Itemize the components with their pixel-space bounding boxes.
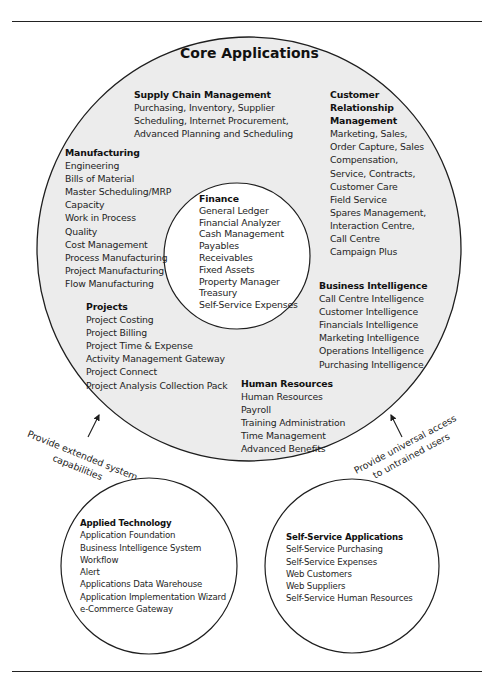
list-item: Field Service — [330, 193, 426, 206]
list-item: Web Suppliers — [286, 580, 413, 592]
list-item: Project Connect — [86, 365, 228, 378]
list-item: Payroll — [241, 403, 345, 416]
list-item: Activity Management Gateway — [86, 352, 228, 365]
core-applications-title: Core Applications — [0, 45, 499, 61]
projects-block: Projects Project Costing Project Billing… — [86, 300, 228, 392]
supply-chain-heading: Supply Chain Management — [134, 88, 293, 101]
crm-block: Customer Relationship Management Marketi… — [330, 88, 426, 258]
list-item: Web Customers — [286, 568, 413, 580]
crm-heading-line: Relationship — [330, 101, 426, 114]
list-item: Self-Service Expenses — [286, 556, 413, 568]
list-item: Alert — [80, 566, 226, 578]
list-item: Scheduling, Internet Procurement, — [134, 114, 293, 127]
list-item: Master Scheduling/MRP — [65, 185, 171, 198]
list-item: Purchasing, Inventory, Supplier — [134, 101, 293, 114]
finance-block: Finance General Ledger Financial Analyze… — [199, 193, 298, 311]
list-item: Application Foundation — [80, 529, 226, 541]
list-item: Self-Service Human Resources — [286, 592, 413, 604]
list-item: Marketing, Sales, — [330, 127, 426, 140]
list-item: Process Manufacturing — [65, 251, 171, 264]
list-item: Receivables — [199, 252, 298, 264]
list-item: Customer Intelligence — [319, 305, 427, 318]
supply-chain-block: Supply Chain Management Purchasing, Inve… — [134, 88, 293, 140]
list-item: Purchasing Intelligence — [319, 358, 427, 371]
crm-heading-line: Customer — [330, 88, 426, 101]
list-item: Compensation, — [330, 153, 426, 166]
crm-heading-line: Management — [330, 114, 426, 127]
list-item: Financial Analyzer — [199, 217, 298, 229]
list-item: Work in Process — [65, 211, 171, 224]
list-item: Business Intelligence System — [80, 542, 226, 554]
human-resources-block: Human Resources Human Resources Payroll … — [241, 377, 345, 456]
list-item: Human Resources — [241, 390, 345, 403]
list-item: Service, Contracts, — [330, 167, 426, 180]
list-item: Advanced Benefits — [241, 442, 345, 455]
manufacturing-block: Manufacturing Engineering Bills of Mater… — [65, 146, 171, 290]
list-item: Project Time & Expense — [86, 339, 228, 352]
list-item: Bills of Material — [65, 172, 171, 185]
list-item: Project Costing — [86, 313, 228, 326]
right-arrow — [391, 415, 402, 437]
list-item: Campaign Plus — [330, 245, 426, 258]
list-item: Marketing Intelligence — [319, 331, 427, 344]
list-item: Property Manager — [199, 276, 298, 288]
list-item: Order Capture, Sales — [330, 140, 426, 153]
applied-technology-block: Applied Technology Application Foundatio… — [80, 517, 226, 615]
business-intelligence-block: Business Intelligence Call Centre Intell… — [319, 279, 427, 371]
list-item: Operations Intelligence — [319, 344, 427, 357]
list-item: Cash Management — [199, 228, 298, 240]
business-intelligence-heading: Business Intelligence — [319, 279, 427, 292]
list-item: Time Management — [241, 429, 345, 442]
list-item: Flow Manufacturing — [65, 277, 171, 290]
list-item: Project Analysis Collection Pack — [86, 379, 228, 392]
list-item: Capacity — [65, 198, 171, 211]
list-item: Treasury — [199, 287, 298, 299]
list-item: Application Implementation Wizard — [80, 591, 226, 603]
list-item: Quality — [65, 225, 171, 238]
list-item: Call Centre — [330, 232, 426, 245]
list-item: Self-Service Purchasing — [286, 543, 413, 555]
list-item: e-Commerce Gateway — [80, 603, 226, 615]
applied-technology-heading: Applied Technology — [80, 517, 226, 529]
self-service-block: Self-Service Applications Self-Service P… — [286, 531, 413, 605]
list-item: Training Administration — [241, 416, 345, 429]
list-item: Financials Intelligence — [319, 318, 427, 331]
list-item: Payables — [199, 240, 298, 252]
list-item: Project Billing — [86, 326, 228, 339]
left-arrow — [88, 415, 99, 437]
list-item: Cost Management — [65, 238, 171, 251]
list-item: Applications Data Warehouse — [80, 578, 226, 590]
list-item: Spares Management, — [330, 206, 426, 219]
self-service-heading: Self-Service Applications — [286, 531, 413, 543]
list-item: Fixed Assets — [199, 264, 298, 276]
manufacturing-heading: Manufacturing — [65, 146, 171, 159]
list-item: Call Centre Intelligence — [319, 292, 427, 305]
list-item: Project Manufacturing — [65, 264, 171, 277]
list-item: Engineering — [65, 159, 171, 172]
list-item: Interaction Centre, — [330, 219, 426, 232]
human-resources-heading: Human Resources — [241, 377, 345, 390]
projects-heading: Projects — [86, 300, 228, 313]
list-item: General Ledger — [199, 205, 298, 217]
list-item: Advanced Planning and Scheduling — [134, 127, 293, 140]
finance-heading: Finance — [199, 193, 298, 205]
list-item: Workflow — [80, 554, 226, 566]
list-item: Customer Care — [330, 180, 426, 193]
